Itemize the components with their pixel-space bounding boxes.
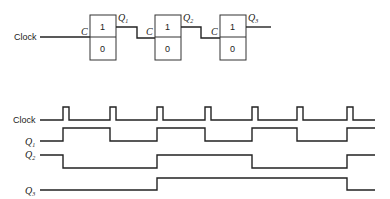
svg-text:1: 1	[100, 22, 105, 32]
q3-waveform	[40, 178, 375, 190]
svg-text:1: 1	[165, 22, 170, 32]
q2-waveform	[40, 155, 375, 168]
flip-flop-3: 1 0 C Q3	[211, 12, 258, 60]
flip-flop-2: 1 0 C Q2	[146, 12, 193, 60]
clock-waveform	[40, 107, 375, 120]
circuit: Clock 1 0 C Q1 1 0 C Q2 1 0 C Q3	[14, 12, 271, 60]
svg-text:0: 0	[100, 44, 105, 54]
svg-text:0: 0	[165, 44, 170, 54]
timing-diagram: Clock Q1 Q2 Q3	[13, 107, 375, 197]
svg-text:Q3: Q3	[248, 12, 258, 24]
svg-text:C: C	[81, 26, 88, 37]
svg-text:1: 1	[230, 22, 235, 32]
svg-text:C: C	[211, 26, 218, 37]
q1-signal-label: Q1	[25, 136, 35, 148]
ripple-counter-diagram: Clock 1 0 C Q1 1 0 C Q2 1 0 C Q3	[0, 0, 390, 199]
svg-text:0: 0	[230, 44, 235, 54]
q2-signal-label: Q2	[25, 149, 35, 161]
q3-signal-label: Q3	[25, 185, 35, 197]
q1-waveform	[40, 128, 375, 141]
svg-text:Q1: Q1	[118, 12, 128, 24]
svg-text:C: C	[146, 26, 153, 37]
flip-flop-1: 1 0 C Q1	[81, 12, 128, 60]
clock-input-label: Clock	[14, 32, 37, 42]
clock-signal-label: Clock	[13, 115, 36, 125]
svg-text:Q2: Q2	[183, 12, 193, 24]
